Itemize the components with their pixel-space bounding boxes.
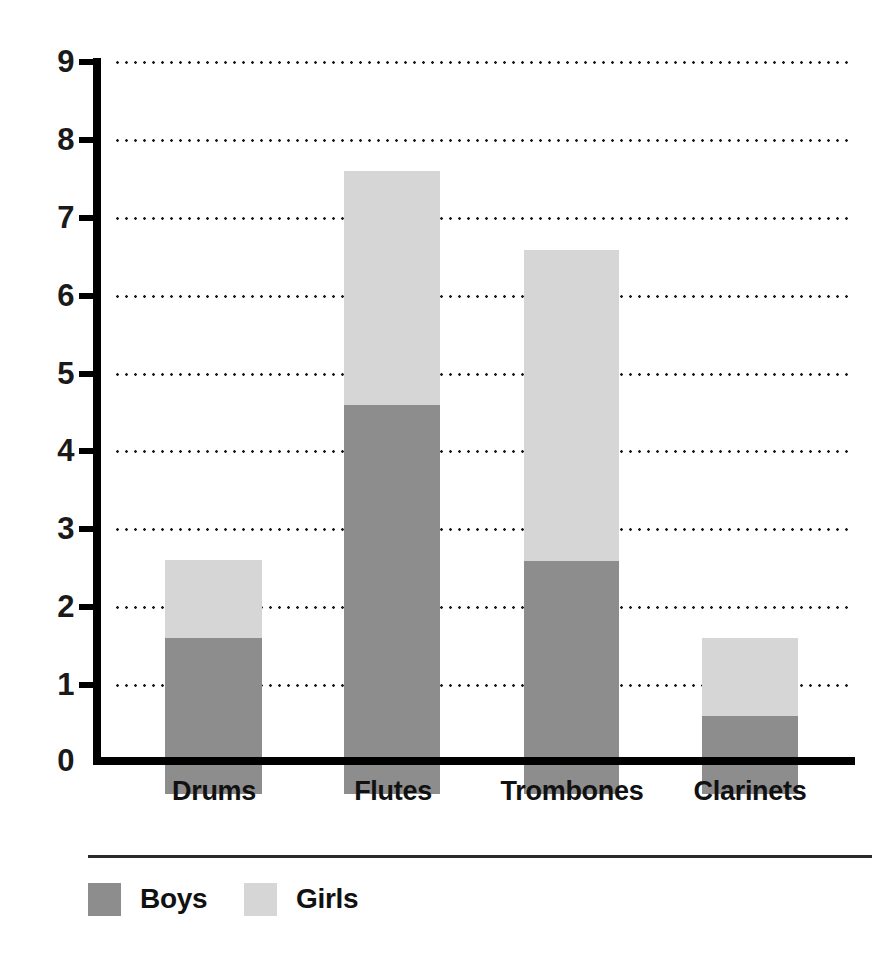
x-axis-label-drums: Drums	[143, 778, 285, 805]
legend-swatch-girls-icon	[244, 883, 277, 916]
y-tick-mark-8	[79, 137, 95, 143]
bar-group-clarinets[interactable]	[702, 38, 798, 800]
legend-label-girls: Girls	[296, 885, 358, 913]
y-tick-mark-3	[79, 526, 95, 532]
y-tick-mark-6	[79, 293, 95, 299]
y-tick-mark-2	[79, 604, 95, 610]
bar-segment-drums-boys[interactable]	[165, 638, 262, 794]
x-axis-label-trombones: Trombones	[490, 778, 654, 805]
legend-divider	[88, 855, 872, 858]
bar-group-flutes[interactable]	[344, 38, 440, 800]
y-tick-mark-1	[79, 682, 95, 688]
bar-segment-flutes-boys[interactable]	[344, 405, 440, 794]
bar-group-drums[interactable]	[165, 38, 262, 800]
bar-segment-flutes-girls[interactable]	[344, 171, 440, 405]
y-tick-mark-9	[79, 59, 95, 65]
y-tick-mark-7	[79, 215, 95, 221]
y-axis-label-1: 1	[30, 669, 74, 700]
y-axis-label-7: 7	[30, 202, 74, 233]
legend-swatch-boys-icon	[88, 883, 121, 916]
x-axis-label-flutes: Flutes	[322, 778, 464, 805]
legend-label-boys: Boys	[140, 885, 207, 913]
y-axis-label-8: 8	[30, 124, 74, 155]
x-axis-label-clarinets: Clarinets	[672, 778, 828, 805]
bar-segment-trombones-girls[interactable]	[524, 250, 619, 561]
y-tick-mark-5	[79, 371, 95, 377]
bar-segment-drums-girls[interactable]	[165, 560, 262, 638]
y-axis-label-3: 3	[30, 513, 74, 544]
legend-entry-girls[interactable]: Girls	[244, 876, 358, 922]
y-axis-label-9: 9	[30, 46, 74, 77]
plot-area: 9 8 7 6 5 4 3 2 1 0 Drums Flutes	[0, 0, 895, 800]
y-axis-line	[93, 58, 101, 764]
bar-segment-clarinets-girls[interactable]	[702, 638, 798, 716]
y-axis-label-5: 5	[30, 358, 74, 389]
stacked-bar-chart: 9 8 7 6 5 4 3 2 1 0 Drums Flutes	[0, 0, 895, 956]
y-tick-mark-4	[79, 448, 95, 454]
x-axis-line	[93, 757, 855, 765]
bar-group-trombones[interactable]	[524, 38, 619, 800]
y-axis-label-2: 2	[30, 591, 74, 622]
y-axis-label-6: 6	[30, 280, 74, 311]
legend-entry-boys[interactable]: Boys	[88, 876, 207, 922]
y-axis-label-4: 4	[30, 435, 74, 466]
y-axis-label-0: 0	[30, 745, 74, 776]
